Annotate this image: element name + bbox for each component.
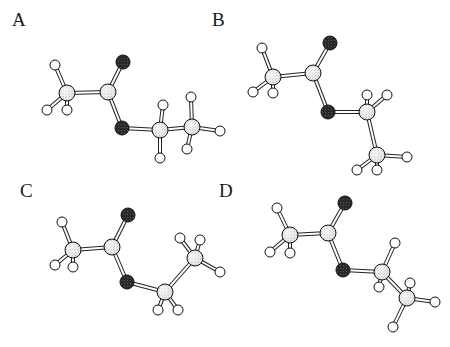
hydrogen-atom (362, 90, 372, 100)
hydrogen-atom (405, 278, 415, 288)
hydrogen-atom (155, 153, 165, 163)
hydrogen-atom (285, 248, 295, 258)
bonds-panel-d (270, 203, 435, 327)
hydrogen-atom (42, 105, 52, 115)
carbon-highlight (360, 105, 374, 119)
hydrogen-atom (257, 43, 267, 53)
hydrogen-atom (215, 267, 225, 277)
bonds-panel-a (47, 62, 220, 158)
hydrogen-atom (173, 305, 183, 315)
hydrogen-atom (68, 262, 78, 272)
hydrogen-atom (175, 233, 185, 243)
atoms-panel-c (50, 208, 225, 315)
figure: A B C D (0, 0, 450, 347)
carbon-highlight (283, 228, 297, 242)
hydrogen-atom (430, 297, 440, 307)
oxygen-atom (338, 196, 352, 210)
atoms-panel-a (42, 55, 225, 163)
carbon-highlight (105, 240, 119, 254)
oxygen-atom (120, 275, 134, 289)
hydrogen-atom (153, 305, 163, 315)
hydrogen-atom (182, 144, 192, 154)
carbon-highlight (375, 265, 389, 279)
oxygen-atom (336, 263, 350, 277)
oxygen-atom (323, 36, 337, 50)
oxygen-atom (121, 208, 135, 222)
carbon-highlight (266, 70, 280, 84)
hydrogen-atom (57, 217, 67, 227)
panel-label-c: C (20, 181, 33, 200)
oxygen-atom (116, 55, 130, 69)
hydrogen-atom (374, 282, 384, 292)
hydrogen-atom (390, 238, 400, 248)
hydrogen-atom (215, 126, 225, 136)
hydrogen-atom (382, 90, 392, 100)
hydrogen-atom (50, 60, 60, 70)
hydrogen-atom (248, 87, 258, 97)
atoms-panel-d (265, 196, 440, 332)
carbon-highlight (400, 291, 414, 305)
oxygen-atom (115, 121, 129, 135)
hydrogen-atom (50, 260, 60, 270)
hydrogen-atom (186, 92, 196, 102)
hydrogen-atom (268, 88, 278, 98)
carbon-highlight (321, 226, 335, 240)
hydrogen-atom (272, 203, 282, 213)
hydrogen-atom (158, 100, 168, 110)
molecule-canvas (0, 0, 450, 347)
carbon-highlight (153, 123, 167, 137)
carbon-highlight (185, 120, 199, 134)
hydrogen-atom (388, 322, 398, 332)
carbon-highlight (60, 86, 74, 100)
atom-layer (42, 36, 440, 332)
hydrogen-atom (352, 165, 362, 175)
oxygen-atom (321, 105, 335, 119)
carbon-highlight (306, 66, 320, 80)
panel-label-d: D (219, 181, 233, 200)
carbon-highlight (370, 148, 384, 162)
carbon-highlight (66, 243, 80, 257)
carbon-highlight (158, 285, 172, 299)
hydrogen-atom (372, 165, 382, 175)
panel-label-b: B (212, 10, 225, 29)
carbon-highlight (188, 251, 202, 265)
panel-label-a: A (12, 10, 26, 29)
hydrogen-atom (195, 235, 205, 245)
carbon-highlight (101, 85, 115, 99)
hydrogen-atom (402, 152, 412, 162)
hydrogen-atom (265, 247, 275, 257)
hydrogen-atom (62, 105, 72, 115)
